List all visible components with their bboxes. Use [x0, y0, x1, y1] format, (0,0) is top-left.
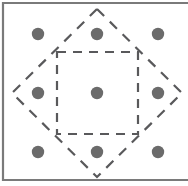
lattice-point — [152, 28, 164, 40]
lattice-figure-canvas — [0, 0, 188, 186]
lattice-point — [91, 28, 103, 40]
lattice-point — [91, 146, 103, 158]
lattice-point — [152, 146, 164, 158]
lattice-point — [91, 87, 103, 99]
lattice-point — [152, 87, 164, 99]
lattice-figure-panel — [0, 0, 188, 186]
lattice-point — [32, 28, 44, 40]
lattice-point — [32, 87, 44, 99]
lattice-point — [32, 146, 44, 158]
